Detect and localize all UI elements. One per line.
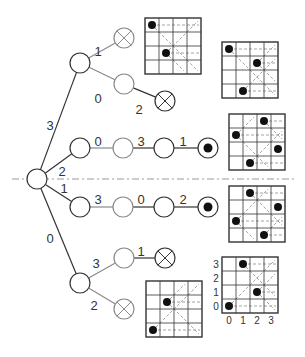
chess-board <box>229 114 285 170</box>
queen-icon <box>162 49 170 57</box>
edge-label: 1 <box>60 181 67 196</box>
queen-icon <box>225 45 233 53</box>
edge-label: 3 <box>137 134 144 149</box>
tree-node <box>114 74 134 94</box>
edge-label: 3 <box>94 192 101 207</box>
chess-boards: 32100123 <box>145 18 285 337</box>
tree-node <box>70 273 90 293</box>
queen-icon <box>260 231 268 239</box>
queen-icon <box>225 302 233 310</box>
row-index-label: 3 <box>213 259 219 270</box>
chess-board <box>146 281 202 337</box>
row-index-label: 2 <box>213 273 219 284</box>
edge-label: 2 <box>90 298 97 313</box>
queen-icon <box>239 87 247 95</box>
queen-icon <box>149 326 157 334</box>
solution-node <box>198 138 218 158</box>
edge-label: 3 <box>92 256 99 271</box>
dead-end-node <box>114 28 134 48</box>
edge-label: 0 <box>46 231 53 246</box>
queen-icon <box>239 260 247 268</box>
queen-icon <box>232 131 240 139</box>
chess-board <box>222 42 278 98</box>
solution-node <box>198 197 218 217</box>
edge-label: 1 <box>137 244 144 259</box>
queen-icon <box>260 117 268 125</box>
tree-edge <box>89 43 116 58</box>
row-index-label: 0 <box>213 301 219 312</box>
tree-node <box>70 138 90 158</box>
edge-label: 2 <box>135 102 142 117</box>
queen-icon <box>148 21 156 29</box>
queen-icon <box>232 217 240 225</box>
queen-icon <box>246 189 254 197</box>
tree-node <box>154 197 174 217</box>
tree-node <box>113 138 133 158</box>
column-index-label: 3 <box>268 315 274 326</box>
dead-end-node <box>114 299 134 319</box>
edge-label: 0 <box>137 192 144 207</box>
chess-board <box>222 257 278 313</box>
tree-nodes <box>27 28 218 319</box>
edge-label: 3 <box>46 118 53 133</box>
queen-icon <box>246 159 254 167</box>
solution-dot-icon <box>204 144 213 153</box>
tree-edge <box>133 88 156 97</box>
queen-icon <box>274 145 282 153</box>
solution-dot-icon <box>204 203 213 212</box>
tree-node <box>154 138 174 158</box>
chess-board <box>229 186 285 242</box>
tree-node <box>114 248 134 268</box>
tree-edge <box>45 184 71 201</box>
edge-label: 0 <box>94 134 101 149</box>
tree-node <box>70 197 90 217</box>
chess-board <box>145 18 201 74</box>
queen-icon <box>253 288 261 296</box>
tree-node <box>70 53 90 73</box>
edge-label: 1 <box>179 134 186 149</box>
queen-icon <box>274 203 282 211</box>
edge-label: 1 <box>94 44 101 59</box>
edge-label: 0 <box>94 91 101 106</box>
dead-end-node <box>155 248 175 268</box>
tree-edge <box>89 67 115 79</box>
column-index-label: 0 <box>226 315 232 326</box>
dead-end-node <box>155 91 175 111</box>
edge-label: 2 <box>58 164 65 179</box>
tree-node <box>113 197 133 217</box>
tree-node <box>27 169 47 189</box>
column-index-label: 1 <box>240 315 246 326</box>
queen-icon <box>253 59 261 67</box>
column-index-label: 2 <box>254 315 260 326</box>
row-index-label: 1 <box>213 287 219 298</box>
n-queens-search-tree-diagram: 3102203113020312 32100123 <box>0 0 305 357</box>
queen-icon <box>163 298 171 306</box>
edge-label: 2 <box>179 192 186 207</box>
